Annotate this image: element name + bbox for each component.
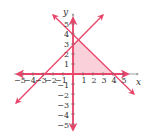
x-tick-label: 2 [91,76,96,85]
x-tick-label: 4 [111,76,116,85]
y-tick-label: −1 [57,81,69,90]
x-tick-label: 5 [121,76,126,85]
y-tick-label: 4 [64,30,69,39]
x-axis-label: x [136,77,141,87]
y-tick-label: 5 [64,20,69,29]
y-tick-label: −4 [57,111,69,120]
y-tick-label: 3 [64,40,69,49]
y-tick-label: −3 [57,101,69,110]
y-axis-label: y [62,7,69,17]
x-tick-label: 1 [81,76,86,85]
shaded-region [73,39,113,74]
y-tick-label: 2 [64,50,69,59]
y-tick-label: 1 [64,60,69,69]
y-tick-label: −5 [57,121,69,130]
coordinate-plane: −5 −4 −3 −2 −1 1 2 3 4 5 5 4 3 2 1 −1 −2… [0,0,148,136]
y-tick-label: −2 [57,91,69,100]
x-tick-label: 3 [101,76,106,85]
